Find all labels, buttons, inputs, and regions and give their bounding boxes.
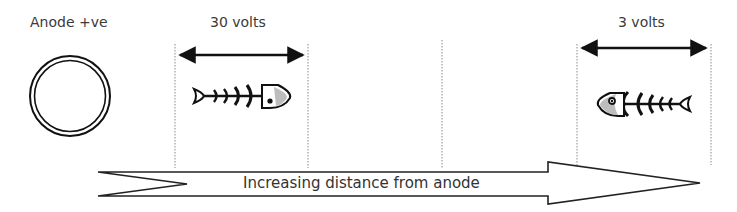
fish-skeleton-right-icon xyxy=(598,92,690,116)
anode-icon xyxy=(30,56,110,136)
arrow-caption: Increasing distance from anode xyxy=(243,174,480,192)
electrofishing-voltage-diagram: Anode +ve 30 volts 3 volts xyxy=(0,0,737,212)
fish-skeleton-left-icon xyxy=(194,85,290,108)
